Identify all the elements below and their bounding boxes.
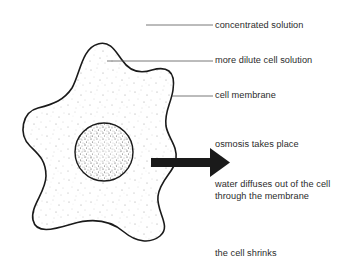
label-cell-membrane: cell membrane — [215, 89, 276, 101]
label-water-diffuses: water diffuses out of the cell through t… — [215, 178, 330, 202]
label-concentrated-solution: concentrated solution — [215, 19, 303, 31]
osmosis-cell-diagram — [0, 0, 343, 272]
label-water-diffuses-line1: water diffuses out of the cell — [215, 178, 330, 190]
label-osmosis: osmosis takes place — [215, 138, 299, 150]
label-water-diffuses-line2: through the membrane — [215, 190, 330, 202]
label-cell-shrinks: the cell shrinks — [215, 247, 277, 259]
label-dilute-cell-solution: more dilute cell solution — [215, 54, 312, 66]
nucleus-highlight — [92, 136, 120, 164]
